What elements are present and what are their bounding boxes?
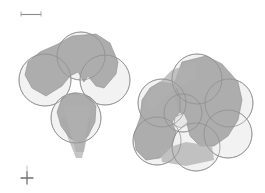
core-polygon-upper: [25, 34, 118, 96]
left-cluster: [19, 32, 130, 158]
scale-bar: [21, 12, 41, 17]
axis-marker: [21, 166, 33, 184]
right-cluster: [133, 54, 253, 171]
molecular-diagram: [0, 0, 265, 193]
figure-canvas: [0, 0, 265, 193]
